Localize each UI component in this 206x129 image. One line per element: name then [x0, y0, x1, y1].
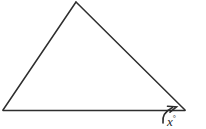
geometry-figure: x° — [0, 0, 206, 129]
angle-label: x° — [167, 112, 176, 128]
triangle-diagram-svg — [0, 0, 206, 129]
degree-symbol: ° — [173, 114, 176, 123]
triangle-right-side — [76, 2, 185, 110]
triangle-left-side — [3, 2, 76, 110]
